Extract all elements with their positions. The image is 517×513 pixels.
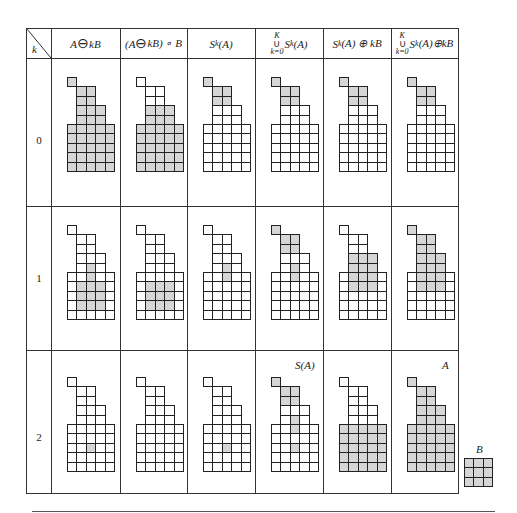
row-divider-1: [27, 206, 458, 207]
row-label-k0: 0: [27, 134, 51, 146]
pixel-cell: [241, 310, 251, 320]
structuring-element-label: B: [476, 443, 483, 455]
pixel-cell: [174, 462, 184, 472]
pixel-cell: [377, 310, 387, 320]
header-skeleton_subset: Sk(A): [187, 29, 255, 58]
column-divider-2: [187, 29, 188, 493]
column-divider-1: [120, 29, 121, 493]
pixel-cell: [105, 310, 115, 320]
header-divider: [27, 58, 458, 59]
column-divider-5: [391, 29, 392, 493]
pixel-cell: [377, 462, 387, 472]
pixel-cell: [174, 310, 184, 320]
original-set-annotation: A: [442, 359, 449, 371]
row-divider-2: [27, 350, 458, 351]
pixel-cell: [377, 162, 387, 172]
pixel-cell: [445, 162, 455, 172]
column-divider-4: [323, 29, 324, 493]
pixel-cell: [309, 162, 319, 172]
column-divider-0: [51, 29, 52, 493]
pixel-cell: [445, 310, 455, 320]
pixel-cell: [241, 462, 251, 472]
row-label-k2: 2: [27, 431, 51, 443]
pixel-cell: [483, 477, 493, 487]
header-union_subsets: K∪k=0Sk(A): [255, 29, 323, 58]
row-label-k1: 1: [27, 272, 51, 284]
pixel-cell: [105, 162, 115, 172]
pixel-cell: [309, 310, 319, 320]
header-erosion: A ⊖ kB: [51, 29, 120, 58]
pixel-cell: [105, 462, 115, 472]
header-opening: (A ⊖ kB) ∘ B: [120, 29, 187, 58]
pixel-cell: [241, 162, 251, 172]
header-union_dilated: K∪k=0Sk(A)⊕kB: [391, 29, 458, 58]
corner-k-label: k: [32, 43, 37, 55]
corner-diagonal: [27, 29, 51, 58]
skeleton-annotation: S(A): [295, 359, 315, 371]
bottom-rule: [32, 511, 495, 512]
column-divider-3: [255, 29, 256, 493]
pixel-cell: [445, 462, 455, 472]
skeleton-table: k A ⊖ kB(A ⊖ kB) ∘ BSk(A)K∪k=0Sk(A)Sk(A)…: [26, 28, 459, 494]
pixel-cell: [309, 462, 319, 472]
header-subset_dilated: Sk(A) ⊕ kB: [323, 29, 391, 58]
pixel-cell: [174, 162, 184, 172]
